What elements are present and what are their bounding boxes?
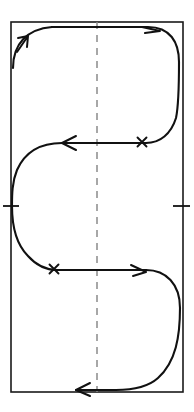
figure-root: [0, 0, 194, 412]
trajectory-diagram-canvas: [0, 0, 194, 412]
